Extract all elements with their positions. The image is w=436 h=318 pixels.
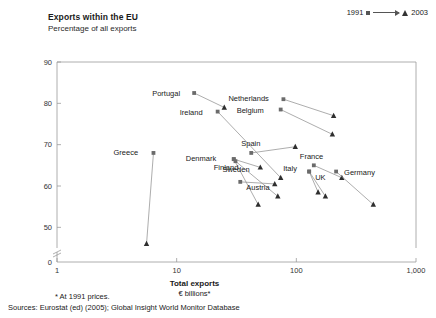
series-connector [194,93,224,107]
marker-2003 [371,202,376,207]
series-connector [147,153,154,244]
marker-2003 [293,144,298,149]
marker-1991 [249,151,253,155]
y-tick-label: 0 [48,258,52,267]
marker-1991 [307,170,311,174]
marker-2003 [275,193,280,198]
country-series [282,97,337,118]
point-label-france: France [300,152,323,161]
point-label-greece: Greece [113,148,138,157]
x-tick-label: 1,000 [407,266,426,275]
marker-1991 [216,110,220,114]
marker-1991 [238,180,242,184]
point-label-portugal: Portugal [152,89,180,98]
marker-2003 [315,189,320,194]
plot-frame [57,62,416,248]
y-tick-label: 60 [44,182,52,191]
y-tick-label: 90 [44,58,52,67]
marker-1991 [282,97,286,101]
marker-1991 [279,108,283,112]
marker-2003 [323,193,328,198]
marker-2003 [255,202,260,207]
footnote-sources: Sources: Eurostat (ed) (2005); Global In… [8,303,240,312]
y-tick-label: 50 [44,223,52,232]
country-series [144,151,156,246]
x-tick-label: 1 [55,266,59,275]
point-label-sweden: Sweden [222,165,249,174]
x-axis-subtitle: € billions* [178,289,210,298]
x-tick-label: 100 [290,266,303,275]
marker-1991 [192,91,196,95]
point-label-germany: Germany [344,168,375,177]
marker-2003 [330,131,335,136]
point-label-netherlands: Netherlands [228,94,269,103]
point-label-ireland: Ireland [180,108,203,117]
point-label-belgium: Belgium [237,106,264,115]
point-label-spain: Spain [241,139,260,148]
country-series [279,108,335,137]
point-label-uk: UK [315,173,325,182]
point-label-austria: Austria [246,183,270,192]
marker-2003 [144,241,149,246]
point-labels-layer: PortugalIrelandNetherlandsBelgiumSpainDe… [113,89,375,192]
point-label-italy: Italy [283,164,297,173]
footnote-prices: * At 1991 prices. [55,292,110,301]
marker-1991 [334,170,338,174]
marker-1991 [312,163,316,167]
x-tick-label: 10 [172,266,180,275]
y-tick-label: 80 [44,99,52,108]
y-tick-label: 70 [44,140,52,149]
series-connector [281,110,333,135]
point-label-denmark: Denmark [186,154,217,163]
series-connector [283,99,333,116]
scatter-plot: 050607080901101001,000Total exports€ bil… [0,0,436,318]
marker-1991 [152,151,156,155]
x-axis-title: Total exports [170,279,220,288]
marker-2003 [222,104,227,109]
